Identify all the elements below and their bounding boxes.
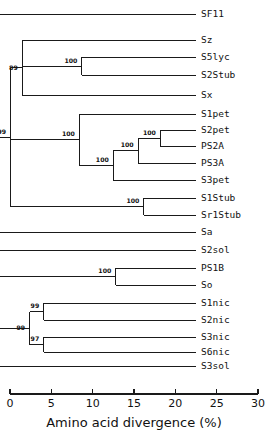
axis-tick-label-20: 20 bbox=[168, 397, 182, 410]
x-axis: 051015202530Amino acid divergence (%) bbox=[7, 389, 266, 430]
axis-tick-label-0: 0 bbox=[7, 397, 14, 410]
tip-labels: SF11SzS5lycS2StubSxS1petS2petPS2APS3AS3p… bbox=[201, 8, 241, 371]
tip-label-s3nic: S3nic bbox=[201, 331, 230, 342]
bootstrap-value-n-pet-mid: 100 bbox=[96, 156, 110, 163]
axis-tick-label-10: 10 bbox=[86, 397, 100, 410]
bootstrap-value-n-99-nic-up: 99 bbox=[31, 302, 40, 309]
tree-canvas: 9910099891001001001001001005983100949999… bbox=[0, 0, 266, 443]
tip-label-sa: Sa bbox=[201, 226, 212, 237]
tip-label-ps2a: PS2A bbox=[201, 140, 224, 151]
tip-label-s1pet: S1pet bbox=[201, 108, 230, 119]
tip-label-so: So bbox=[201, 279, 213, 290]
bootstrap-value-n-ps1b-so: 100 bbox=[98, 267, 112, 274]
bootstrap-value-n-stub-pair: 100 bbox=[126, 197, 140, 204]
tip-label-s1nic: S1nic bbox=[201, 297, 230, 308]
axis-title: Amino acid divergence (%) bbox=[46, 415, 222, 430]
bootstrap-value-n-97-nic: 97 bbox=[31, 335, 40, 342]
axis-tick-label-5: 5 bbox=[48, 397, 55, 410]
tip-label-s3sol: S3sol bbox=[201, 360, 230, 371]
bootstrap-value-n-pet-top: 100 bbox=[62, 130, 76, 137]
tip-label-s6nic: S6nic bbox=[201, 346, 230, 357]
tip-label-sz: Sz bbox=[201, 34, 212, 45]
axis-tick-label-25: 25 bbox=[210, 397, 224, 410]
tip-label-s2stub: S2Stub bbox=[201, 69, 236, 80]
tip-label-ps1b: PS1B bbox=[201, 262, 224, 273]
bootstrap-value-n-99-nic: 99 bbox=[17, 324, 26, 331]
bootstrap-values: 9910099891001001001001001005983100949999… bbox=[0, 57, 157, 355]
tip-label-s1stub: S1Stub bbox=[201, 192, 236, 203]
bootstrap-value-n-89: 89 bbox=[9, 64, 18, 71]
tree-branches bbox=[0, 14, 196, 366]
tip-label-sx: Sx bbox=[201, 89, 213, 100]
tip-label-s2nic: S2nic bbox=[201, 314, 230, 325]
bootstrap-value-n-sz-clade: 99 bbox=[0, 128, 6, 135]
axis-tick-label-15: 15 bbox=[127, 397, 141, 410]
axis-tick-label-30: 30 bbox=[251, 397, 265, 410]
bootstrap-value-n-pet-pair: 100 bbox=[143, 129, 157, 136]
tip-label-s5lyc: S5lyc bbox=[201, 51, 230, 62]
tip-label-s2sol: S2sol bbox=[201, 244, 230, 255]
tip-label-s3pet: S3pet bbox=[201, 174, 230, 185]
tip-label-sr1stub: Sr1Stub bbox=[201, 209, 241, 220]
bootstrap-value-n-lyc-stub: 100 bbox=[64, 57, 78, 64]
tip-label-sf11: SF11 bbox=[201, 8, 224, 19]
bootstrap-value-n-pet-in: 100 bbox=[121, 141, 135, 148]
tip-label-s2pet: S2pet bbox=[201, 124, 230, 135]
phylogenetic-tree-figure: 9910099891001001001001001005983100949999… bbox=[0, 0, 266, 443]
tip-label-ps3a: PS3A bbox=[201, 157, 224, 168]
